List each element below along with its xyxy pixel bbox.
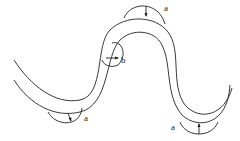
channel-inner-bank	[14, 32, 230, 123]
label-a-left: a	[84, 114, 88, 123]
label-b: b	[121, 56, 126, 65]
bulge-a-left	[48, 108, 82, 123]
label-a-right: a	[171, 123, 175, 132]
label-a-top: a	[164, 4, 168, 13]
bulge-a-top	[124, 6, 165, 24]
channel-outer-bank	[14, 19, 232, 114]
diagram-canvas: a b a a	[0, 0, 240, 141]
meander-diagram	[0, 0, 240, 141]
